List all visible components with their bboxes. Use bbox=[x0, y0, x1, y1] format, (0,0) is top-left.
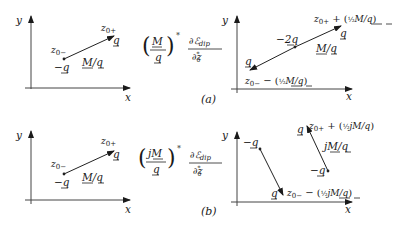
vector-label: M/q bbox=[315, 42, 337, 54]
vector-label: M/q bbox=[81, 56, 103, 68]
panel-b-operator: ( jM q ) * ∂ℰdip ∂z*0 (b) bbox=[138, 144, 222, 218]
mid-charge: −2q bbox=[276, 33, 298, 45]
dipole2-top-charge: q bbox=[297, 123, 304, 135]
panel-b-left-plot: y x z0− −q z0+ q M/q bbox=[15, 129, 131, 215]
vector-label: M/q bbox=[81, 171, 103, 183]
numerator: jM bbox=[146, 147, 162, 159]
start-charge: −q bbox=[54, 61, 70, 73]
panel-a-operator: ( M q ) * ∂ℰdip ∂z*0 (a) bbox=[142, 31, 222, 106]
dipole2-bottom-charge: −q bbox=[310, 164, 326, 176]
left-paren: ( bbox=[142, 33, 151, 58]
dipole1-bottom-charge: q bbox=[271, 187, 278, 199]
caption-a: (a) bbox=[201, 93, 216, 106]
start-point bbox=[63, 58, 66, 61]
end-charge: q bbox=[340, 27, 347, 39]
x-axis-label: x bbox=[125, 203, 131, 215]
deriv-numerator: ∂ℰdip bbox=[189, 36, 210, 48]
dipole2-top-label: z0+ + (½jM/q) bbox=[308, 120, 374, 133]
dipole1-top-charge: −q bbox=[243, 136, 259, 148]
x-axis-label: x bbox=[125, 91, 131, 103]
caption-b: (b) bbox=[201, 205, 217, 218]
left-paren: ( bbox=[138, 145, 147, 170]
end-label: z0+ + (½M/q) bbox=[313, 13, 377, 26]
panel-a-left-plot: y x z0− −q z0+ q M/q bbox=[15, 14, 131, 103]
panel-a-right-plot: y x −2q M/q q z0− − (½M/q) q z0+ + (½M/q… bbox=[221, 13, 392, 102]
x-axis-label: x bbox=[345, 203, 351, 215]
start-charge: q bbox=[245, 55, 252, 67]
deriv-denominator: ∂z*0 bbox=[193, 164, 203, 177]
right-paren: ) bbox=[167, 145, 176, 170]
end-charge: q bbox=[113, 34, 120, 46]
conjugate: * bbox=[177, 144, 181, 153]
vector-label: jM/q bbox=[322, 140, 349, 152]
y-axis-label: y bbox=[221, 14, 229, 26]
conjugate: * bbox=[176, 31, 180, 40]
dipole-diagram: y x z0− −q z0+ q M/q ( M q ) * ∂ℰdip ∂z*… bbox=[0, 0, 411, 236]
end-label: z0+ bbox=[100, 136, 116, 148]
deriv-numerator: ∂ℰdip bbox=[190, 150, 211, 162]
start-label: z0− bbox=[50, 45, 66, 57]
y-axis-label: y bbox=[15, 129, 23, 141]
end-charge: q bbox=[113, 148, 120, 160]
start-charge: −q bbox=[54, 176, 70, 188]
right-paren: ) bbox=[166, 33, 175, 58]
numerator: M bbox=[151, 35, 163, 47]
start-label: z0− bbox=[50, 159, 66, 171]
denominator: q bbox=[153, 163, 160, 175]
y-axis-label: y bbox=[221, 129, 229, 141]
panel-b-right-plot: y x −q q z0− − (½jM/q) −q q z0+ + (½jM/q… bbox=[221, 120, 374, 215]
vector-down bbox=[250, 47, 295, 70]
denominator: q bbox=[155, 51, 162, 63]
deriv-denominator: ∂z*0 bbox=[192, 50, 202, 63]
x-axis-label: x bbox=[346, 90, 352, 102]
y-axis-label: y bbox=[15, 14, 23, 26]
